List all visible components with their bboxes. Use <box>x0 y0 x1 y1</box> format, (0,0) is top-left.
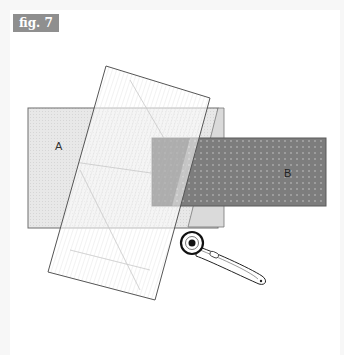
rotary-cutter-icon <box>181 232 266 284</box>
quilting-cut-diagram: A B <box>0 0 344 355</box>
piece-a-label: A <box>55 140 63 152</box>
piece-b-label: B <box>284 167 291 179</box>
